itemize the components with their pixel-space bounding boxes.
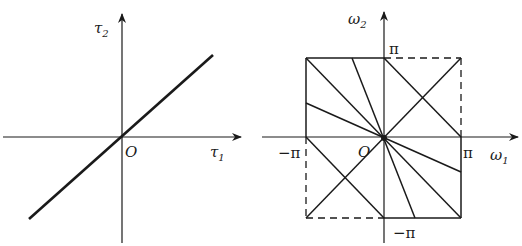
origin-label: O xyxy=(358,143,370,161)
tick-neg-pi-bottom: −π xyxy=(393,224,416,242)
left-panel: τ2 τ1 O xyxy=(3,14,241,243)
right-panel: ω2 ω1 O π π −π −π xyxy=(262,10,518,243)
omega2-axis-label: ω2 xyxy=(348,10,367,30)
diagram-canvas: τ2 τ1 O xyxy=(0,0,522,246)
tick-pi-top: π xyxy=(389,40,399,58)
origin-label: O xyxy=(125,143,137,161)
origin-dot xyxy=(381,135,387,141)
tick-pi-right: π xyxy=(463,144,473,162)
tau1-axis-label: τ1 xyxy=(210,143,225,163)
tick-neg-pi-left: −π xyxy=(278,144,301,162)
omega1-axis-label: ω1 xyxy=(490,146,509,166)
tau2-axis-label: τ2 xyxy=(94,19,109,39)
